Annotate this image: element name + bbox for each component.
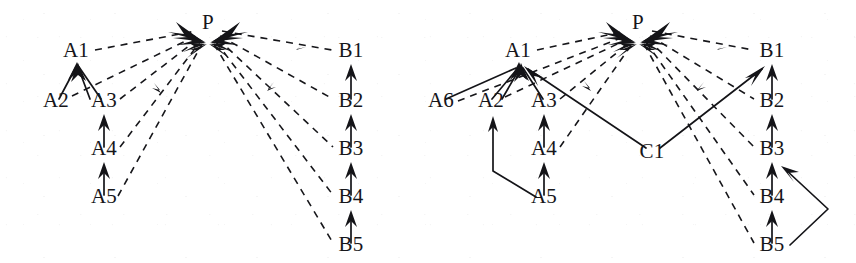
node-label-a4-left: A4 bbox=[91, 136, 117, 160]
edge-a5-a2-r-bent bbox=[493, 122, 536, 197]
edge-p-b3-r bbox=[648, 39, 754, 147]
node-label-b4-left: B4 bbox=[339, 184, 364, 208]
edge-p-b3 bbox=[218, 39, 333, 147]
node-label-b1-right: B1 bbox=[760, 38, 785, 62]
node-label-a4-right: A4 bbox=[531, 136, 557, 160]
right-graph-panel: P A1 A6 A2 A3 A4 A5 C1 B1 B2 B3 B4 B5 bbox=[428, 10, 828, 256]
node-label-a6-right: A6 bbox=[428, 88, 454, 112]
edge-a3-p-r bbox=[560, 42, 630, 99]
left-dashed-edges-to-p bbox=[72, 31, 202, 196]
edge-a2-p bbox=[72, 36, 196, 96]
edge-a3-p bbox=[120, 39, 198, 99]
node-label-b2-left: B2 bbox=[339, 88, 364, 112]
graph-canvas: P A1 A2 A3 A4 A5 B1 B2 B3 B4 B5 bbox=[0, 0, 856, 263]
left-graph-panel: P A1 A2 A3 A4 A5 B1 B2 B3 B4 B5 bbox=[43, 10, 364, 256]
node-label-b5-right: B5 bbox=[760, 232, 785, 256]
node-label-a2-left: A2 bbox=[43, 88, 69, 112]
right-dashed-edges-from-p bbox=[644, 31, 754, 243]
figure-root: P A1 A2 A3 A4 A5 B1 B2 B3 B4 B5 bbox=[0, 0, 856, 263]
node-label-b4-right: B4 bbox=[760, 184, 785, 208]
node-label-a2-right: A2 bbox=[478, 88, 504, 112]
left-a-chain-arrowheads bbox=[68, 62, 110, 179]
edge-b5-b3-r-bent bbox=[786, 170, 828, 245]
edge-p-b2-r bbox=[650, 36, 754, 99]
edge-a4-p bbox=[120, 42, 200, 147]
node-label-b5-left: B5 bbox=[339, 232, 364, 256]
node-label-b3-left: B3 bbox=[339, 136, 364, 160]
left-a-chain bbox=[59, 67, 104, 195]
node-label-b3-right: B3 bbox=[760, 136, 785, 160]
node-label-a3-right: A3 bbox=[531, 88, 557, 112]
node-label-a5-right: A5 bbox=[531, 184, 557, 208]
edge-p-b4-r bbox=[646, 42, 754, 195]
edge-c1-b1-r bbox=[660, 69, 762, 148]
node-label-b2-right: B2 bbox=[760, 88, 785, 112]
right-c1-edges bbox=[528, 69, 762, 148]
node-label-a5-left: A5 bbox=[91, 184, 117, 208]
node-label-c1-right: C1 bbox=[640, 139, 665, 163]
node-label-a1-left: A1 bbox=[63, 38, 89, 62]
edge-p-b2 bbox=[220, 36, 333, 99]
node-label-b1-left: B1 bbox=[339, 38, 364, 62]
edge-p-b4 bbox=[216, 42, 333, 195]
edge-p-b5 bbox=[214, 44, 333, 243]
node-label-p-left: P bbox=[202, 10, 214, 34]
left-dashed-edges-from-p bbox=[214, 31, 333, 243]
node-label-a3-left: A3 bbox=[91, 88, 117, 112]
node-label-a1-right: A1 bbox=[505, 38, 531, 62]
node-label-p-right: P bbox=[632, 10, 644, 34]
